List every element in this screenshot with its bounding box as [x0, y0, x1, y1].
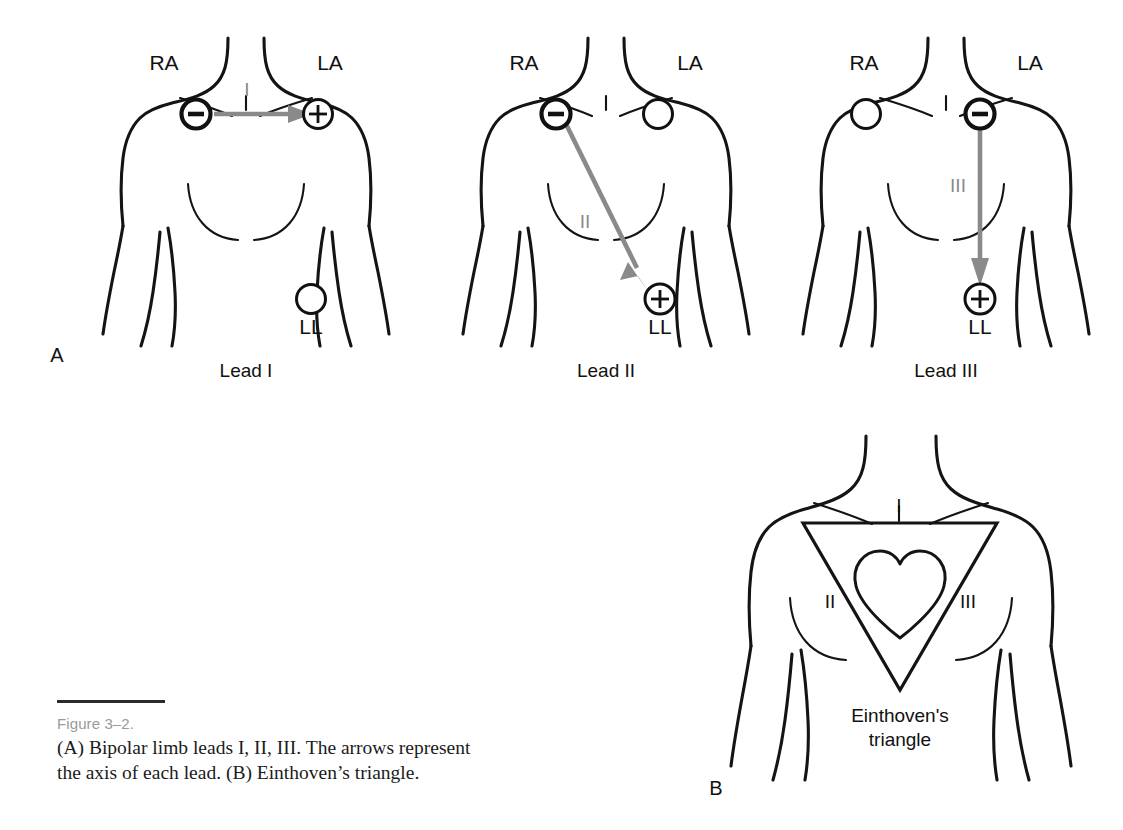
panel-letter-b: B: [709, 777, 722, 799]
electrode-label-ll-lead3: LL: [968, 315, 991, 338]
electrode-la-lead1: [304, 100, 333, 129]
figure-root: RA LA I LL: [0, 0, 1123, 830]
electrode-label-la-lead3: LA: [1017, 51, 1043, 74]
einthoven-annotation-line1: Einthoven's: [851, 705, 949, 726]
lead-axis-label-2: II: [580, 211, 591, 232]
lead-axis-arrow-3: [971, 130, 989, 286]
electrode-label-la-lead1: LA: [317, 51, 343, 74]
figure-number: Figure 3–2.: [57, 715, 477, 732]
caption-line-1: (A) Bipolar limb leads I, II, III. The a…: [57, 735, 477, 760]
lead-caption-3: Lead III: [914, 360, 977, 381]
torso-panel-b: I II III Einthoven's triangle: [731, 436, 1071, 780]
lead-axis-label-3: III: [950, 175, 966, 196]
electrode-label-ra-lead3: RA: [849, 51, 878, 74]
figure-caption-text: (A) Bipolar limb leads I, II, III. The a…: [57, 735, 477, 785]
lead-axis-label-1: I: [244, 79, 249, 100]
torso-lead-3: RA LA III LL Lead III: [803, 38, 1089, 381]
electrode-label-ll-lead2: LL: [648, 315, 671, 338]
torso-lead-2: RA LA II LL Lead II: [463, 38, 749, 381]
electrode-ll-lead1: [297, 285, 326, 314]
electrode-label-ra-lead1: RA: [149, 51, 178, 74]
caption-line-2: the axis of each lead. (B) Einthoven’s t…: [57, 760, 477, 785]
caption-divider: [57, 700, 165, 703]
triangle-label-right: III: [960, 591, 976, 612]
electrode-label-ll-lead1: LL: [299, 315, 322, 338]
lead-caption-1: Lead I: [220, 360, 273, 381]
heart-icon: [855, 551, 945, 638]
triangle-label-top: I: [896, 495, 901, 516]
electrode-ra-lead2: [542, 100, 571, 129]
electrode-label-ra-lead2: RA: [509, 51, 538, 74]
electrode-ll-lead3: [965, 284, 995, 314]
triangle-label-left: II: [825, 591, 836, 612]
electrode-la-lead2: [644, 100, 673, 129]
einthoven-annotation-line2: triangle: [869, 729, 931, 750]
electrode-label-la-lead2: LA: [677, 51, 703, 74]
torso-lead-1: RA LA I LL: [103, 38, 389, 381]
electrode-la-lead3: [966, 100, 995, 129]
lead-axis-arrow-1: [214, 105, 312, 123]
panel-letter-a: A: [50, 344, 64, 366]
electrode-ra-lead3: [852, 100, 881, 129]
electrode-ll-lead2: [645, 284, 675, 314]
figure-caption-block: Figure 3–2. (A) Bipolar limb leads I, II…: [57, 700, 477, 785]
lead-caption-2: Lead II: [577, 360, 635, 381]
electrode-ra-lead1: [182, 100, 211, 129]
